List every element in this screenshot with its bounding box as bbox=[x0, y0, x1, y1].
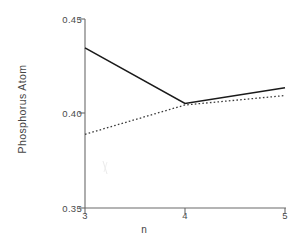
y-tick-label-0.40: 0.40 bbox=[62, 108, 82, 119]
data-series-dotted bbox=[85, 96, 285, 135]
x-tick-label-4: 4 bbox=[182, 210, 188, 221]
y-axis-tick-labels: 0.45 0.40 0.35 bbox=[40, 0, 82, 241]
y-axis-title-line-1: Charge Density at Substituted bbox=[0, 9, 1, 209]
x-axis-title: n bbox=[0, 224, 288, 235]
y-tick-label-0.45: 0.45 bbox=[62, 14, 82, 25]
chart-figure: Charge Density at Substituted Phosphorus… bbox=[0, 0, 288, 241]
axis-lines bbox=[85, 19, 286, 208]
data-series-solid bbox=[85, 48, 285, 104]
x-tick-label-3: 3 bbox=[82, 210, 88, 221]
x-tick-label-5: 5 bbox=[282, 210, 288, 221]
y-axis-title-line-2: Phosphorus Atom bbox=[15, 9, 29, 209]
y-axis-title: Charge Density at Substituted Phosphorus… bbox=[0, 9, 43, 209]
faint-artifact-mark bbox=[103, 161, 107, 174]
